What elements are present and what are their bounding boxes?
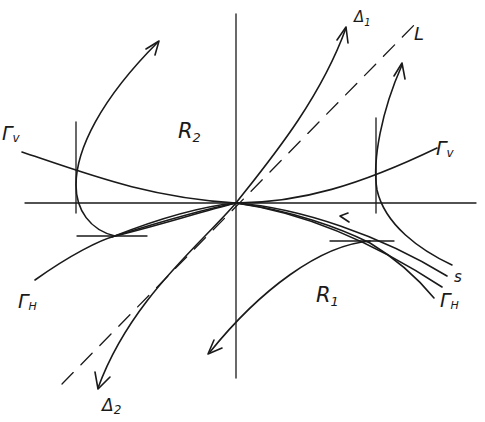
trajectory-R1	[210, 241, 370, 352]
arrowhead-S-icon	[340, 213, 349, 222]
trajectory-left-arc	[76, 42, 158, 236]
label-gamma-h-right: ΓH	[440, 289, 459, 312]
label-gamma-h-left: ΓH	[18, 290, 37, 313]
isocline-gamma-v-left	[22, 152, 236, 203]
label-S: s	[454, 268, 462, 286]
isocline-gamma-h-left	[35, 203, 236, 280]
separatrix-delta2	[98, 203, 236, 388]
separatrix-delta1	[236, 28, 346, 203]
phase-portrait-diagram: Δ1 L Γv Γv R2 R1 s ΓH ΓH Δ2	[0, 0, 485, 422]
isocline-gamma-h-right	[236, 203, 434, 298]
arrowhead-delta1-icon	[337, 27, 348, 43]
dashed-line-L	[62, 18, 421, 384]
label-R1: R1	[316, 283, 339, 309]
label-delta2: Δ2	[100, 395, 121, 417]
trajectory-S	[236, 203, 447, 276]
trajectory-right-arc	[376, 65, 452, 265]
trajectory-left-lower	[115, 203, 236, 236]
label-delta1: Δ1	[353, 8, 371, 28]
isocline-gamma-v-right	[236, 148, 437, 203]
label-gamma-v-right: Γv	[436, 137, 455, 160]
label-gamma-v-left: Γv	[2, 122, 21, 145]
label-L: L	[414, 23, 424, 44]
label-R2: R2	[178, 119, 201, 145]
